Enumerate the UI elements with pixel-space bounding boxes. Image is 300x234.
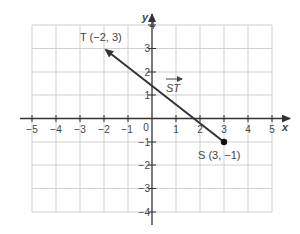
point-t-label: T (−2, 3) [80, 31, 122, 43]
x-tick-label: −4 [50, 124, 62, 135]
y-tick-label: −4 [139, 207, 151, 218]
x-tick-label: 3 [221, 124, 227, 135]
x-tick-labels: −5 −4 −3 −2 −1 0 1 2 3 4 5 [26, 122, 275, 135]
y-tick-label: 3 [144, 43, 150, 54]
y-tick-label: 2 [144, 67, 150, 78]
origin-label: 0 [143, 122, 149, 133]
point-s-dot [221, 139, 227, 145]
vector-label-st: ST [166, 79, 182, 94]
x-tick-label: −1 [121, 124, 133, 135]
point-s-label: S (3, −1) [198, 149, 241, 161]
x-tick-label: 4 [245, 124, 251, 135]
x-tick-label: −3 [74, 124, 86, 135]
x-tick-label: −5 [26, 124, 38, 135]
x-tick-label: 5 [269, 124, 275, 135]
vector-label: ST [166, 82, 181, 94]
x-tick-label: −2 [98, 124, 110, 135]
coordinate-plane: −5 −4 −3 −2 −1 0 1 2 3 4 5 4 3 2 1 −1 −2… [0, 0, 300, 234]
y-tick-label: 1 [144, 90, 150, 101]
coordinate-plane-figure: −5 −4 −3 −2 −1 0 1 2 3 4 5 4 3 2 1 −1 −2… [0, 0, 300, 234]
x-tick-label: 1 [173, 124, 179, 135]
x-axis-label: x [281, 121, 289, 133]
y-tick-label: −3 [139, 183, 151, 194]
y-tick-label: −2 [139, 160, 151, 171]
y-axis-label: y [141, 11, 149, 23]
y-tick-label: −1 [139, 137, 151, 148]
y-tick-label: 4 [149, 20, 155, 31]
